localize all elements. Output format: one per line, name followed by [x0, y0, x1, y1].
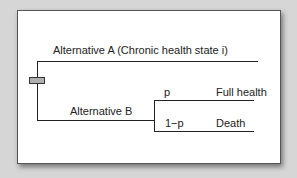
outcome-death-label: Death — [216, 117, 245, 129]
decision-trunk-line — [37, 61, 38, 121]
alternative-b-line — [37, 120, 154, 121]
death-branch-line — [154, 131, 254, 132]
decision-node — [29, 77, 45, 84]
full-health-branch-line — [154, 100, 254, 101]
alternative-b-label: Alternative B — [70, 105, 132, 117]
outcome-full-health-label: Full health — [216, 86, 267, 98]
probability-1-minus-p-label: 1−p — [165, 117, 184, 129]
alternative-a-line — [37, 61, 258, 62]
alternative-a-label: Alternative A (Chronic health state i) — [53, 44, 228, 56]
chance-node-line — [154, 100, 155, 132]
probability-p-label: p — [164, 86, 170, 98]
